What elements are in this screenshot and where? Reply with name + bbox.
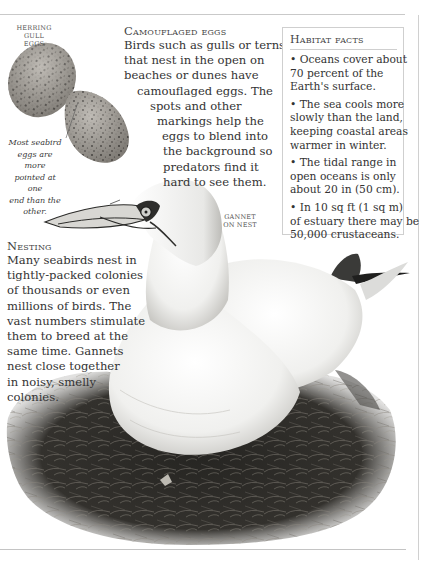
fact-line: • The tidal range in: [290, 156, 397, 170]
eggs-caption-line: other.: [6, 206, 64, 218]
body-line: the background so: [163, 144, 264, 159]
gannet-label: Gannet on nest: [220, 213, 260, 229]
fact-line: • In 10 sq ft (1 sq m): [290, 201, 397, 215]
body-line: tightly-packed colonies: [7, 268, 167, 283]
fact-line: • Oceans cover about: [290, 53, 397, 67]
camouflaged-eggs-heading: Camouflaged eggs: [124, 24, 264, 38]
eggs-caption: Most seabird eggs are more pointed at on…: [6, 137, 64, 218]
eggs-caption-line: Most seabird: [6, 137, 64, 149]
body-line: millions of birds. The: [7, 299, 167, 314]
eggs-label-line: gull eggs: [14, 32, 54, 48]
body-line: camouflaged eggs. The: [137, 84, 264, 99]
fact-line: 70 percent of the: [290, 67, 397, 81]
body-line: vast numbers stimulate: [7, 314, 167, 329]
eggs-caption-line: end than the: [6, 195, 64, 207]
body-line: Birds such as gulls or terns: [124, 38, 264, 53]
eggs-caption-line: pointed at one: [6, 172, 64, 195]
body-line: predators find it: [163, 160, 264, 175]
camouflaged-eggs-section: Camouflaged eggs Birds such as gulls or …: [124, 24, 264, 190]
fact-line: 50,000 crustaceans.: [290, 228, 397, 242]
fact-line: of estuary there may be: [290, 215, 397, 229]
fact-line: slowly than the land,: [290, 111, 397, 125]
fact-line: Earth's surface.: [290, 80, 397, 94]
fact-line: open oceans is only: [290, 170, 397, 184]
habitat-fact: • In 10 sq ft (1 sq m) of estuary there …: [290, 201, 397, 242]
habitat-fact: • Oceans cover about 70 percent of the E…: [290, 53, 397, 94]
body-line: Many seabirds nest in: [7, 253, 167, 268]
fact-line: about 20 in (50 cm).: [290, 183, 397, 197]
camouflaged-eggs-body: Birds such as gulls or terns that nest i…: [124, 38, 264, 190]
bottom-rule: [0, 549, 406, 550]
nesting-section: Nesting Many seabirds nest in tightly-pa…: [7, 239, 167, 405]
body-line: in noisy, smelly: [7, 375, 167, 390]
fact-line: • The sea cools more: [290, 98, 397, 112]
body-line: spots and other: [150, 99, 264, 114]
habitat-fact: • The tidal range in open oceans is only…: [290, 156, 397, 197]
body-line: beaches or dunes have: [124, 68, 264, 83]
body-line: that nest in the open on: [124, 53, 264, 68]
body-line: markings help the: [157, 114, 264, 129]
body-line: nest close together: [7, 359, 167, 374]
nesting-body: Many seabirds nest in tightly-packed col…: [7, 253, 167, 405]
body-line: of thousands or even: [7, 283, 167, 298]
gannet-label-line: Gannet: [220, 213, 260, 221]
nesting-heading: Nesting: [7, 239, 167, 253]
body-line: hard to see them.: [163, 175, 264, 190]
body-line: same time. Gannets: [7, 344, 167, 359]
eggs-label-line: Herring: [14, 24, 54, 32]
fact-line: keeping coastal areas: [290, 125, 397, 139]
habitat-facts-box: Habitat facts • Oceans cover about 70 pe…: [282, 27, 404, 235]
body-line: colonies.: [7, 390, 167, 405]
habitat-fact: • The sea cools more slowly than the lan…: [290, 98, 397, 152]
eggs-label: Herring gull eggs: [14, 24, 54, 48]
habitat-facts-heading: Habitat facts: [290, 33, 397, 50]
body-line: them to breed at the: [7, 329, 167, 344]
eggs-caption-line: eggs are more: [6, 149, 64, 172]
fact-line: warmer in winter.: [290, 139, 397, 153]
body-line: eggs to blend into: [162, 129, 264, 144]
gannet-label-line: on nest: [220, 221, 260, 229]
